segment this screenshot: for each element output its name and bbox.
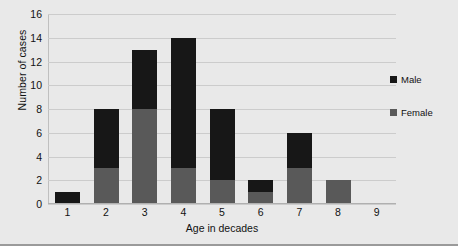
y-tick-label: 10 [12,79,42,91]
bar-group [248,180,273,204]
y-tick-label: 0 [12,198,42,210]
x-tick-label: 2 [103,206,109,218]
y-tick-label: 14 [12,32,42,44]
x-tick-label: 4 [180,206,186,218]
x-tick-label: 9 [374,206,380,218]
gridline [48,204,396,205]
legend-label: Female [401,107,433,118]
bar-segment-female [171,168,196,204]
y-tick-label: 12 [12,56,42,68]
legend-swatch-icon [390,76,397,83]
bar-segment-female [210,180,235,204]
x-tick-label: 1 [64,206,70,218]
chart-legend: MaleFemale [390,74,456,140]
bar-segment-male [94,109,119,168]
y-tick-label: 8 [12,103,42,115]
bar-segment-male [132,50,157,109]
x-tick-label: 8 [335,206,341,218]
bar-segment-female [287,168,312,204]
x-axis-line [48,203,396,204]
bar-segment-female [94,168,119,204]
bar-segment-male [248,180,273,192]
x-tick-label: 3 [142,206,148,218]
y-tick-label: 16 [12,8,42,20]
legend-item: Female [390,107,456,118]
y-axis-tick-labels: 0246810121416 [10,0,42,246]
legend-label: Male [401,74,422,85]
bar-segment-male [171,38,196,169]
bar-group [171,38,196,204]
bar-group [210,109,235,204]
y-tick-label: 2 [12,174,42,186]
x-tick-label: 6 [258,206,264,218]
bar-group [287,133,312,204]
plot-area [48,14,396,204]
bar-group [326,180,351,204]
bar-segment-male [210,109,235,180]
bar-series-container [48,14,396,204]
y-tick-label: 6 [12,127,42,139]
legend-swatch-icon [390,109,397,116]
x-axis-tick-labels: 123456789 [48,206,396,222]
bar-group [132,50,157,204]
chart-figure: Number of cases 0246810121416 123456789 … [0,0,458,246]
legend-item: Male [390,74,456,85]
bar-group [94,109,119,204]
bar-segment-female [132,109,157,204]
x-axis-title: Age in decades [48,222,396,234]
x-tick-label: 5 [219,206,225,218]
bar-segment-male [287,133,312,169]
y-tick-label: 4 [12,151,42,163]
bar-segment-female [326,180,351,204]
x-tick-label: 7 [296,206,302,218]
